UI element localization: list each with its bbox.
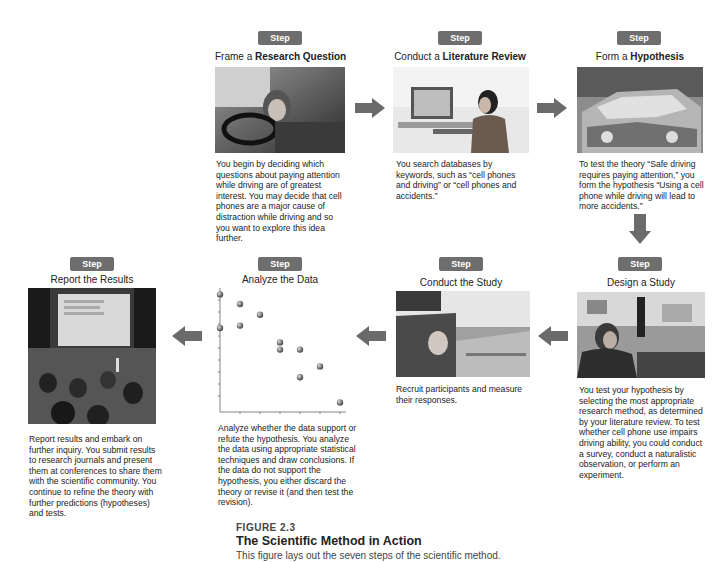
step-badge: Step 1	[258, 31, 302, 45]
data-point	[317, 363, 323, 369]
arrow-right-icon	[355, 98, 385, 118]
photo-driving-simulator	[577, 292, 705, 378]
data-point	[217, 325, 223, 331]
step-description: You search databases by keywords, such a…	[396, 159, 532, 201]
data-point	[277, 346, 283, 352]
photo-crashed-car	[577, 67, 703, 153]
scatter-points	[217, 291, 343, 405]
figure-label: FIGURE 2.3	[236, 522, 501, 533]
photo-participant-in-car	[396, 291, 530, 377]
data-point	[217, 291, 223, 297]
photo-woman-at-computer	[393, 67, 529, 153]
scatterplot	[214, 288, 348, 418]
step-description: Analyze whether the data support or refu…	[218, 423, 358, 508]
photo-woman-driving	[215, 67, 345, 153]
step-title: Analyze the Data	[215, 274, 345, 285]
arrow-right-icon	[537, 98, 567, 118]
step-badge: Step 4	[618, 257, 662, 271]
data-point	[237, 322, 243, 328]
step-title: Conduct a Literature Review	[392, 51, 528, 62]
arrow-left-icon	[356, 326, 386, 346]
step-title: Design a Study	[576, 277, 706, 288]
step-badge: Step 6	[258, 257, 302, 271]
step-description: Recruit participants and measure their r…	[396, 384, 532, 405]
step-title: Conduct the Study	[393, 277, 529, 288]
step-description: Report results and embark on further inq…	[29, 434, 163, 519]
data-point	[257, 312, 263, 318]
data-point	[297, 346, 303, 352]
step-badge: Step 2	[438, 31, 482, 45]
step-description: To test the theory “Safe driving require…	[579, 159, 707, 212]
step-badge: Step 3	[617, 31, 661, 45]
step-badge: Step 5	[439, 257, 483, 271]
data-point	[237, 301, 243, 307]
data-point	[277, 339, 283, 345]
data-point	[297, 374, 303, 380]
arrow-left-icon	[172, 326, 202, 346]
step-description: You test your hypothesis by selecting th…	[579, 385, 709, 480]
step-description: You begin by deciding which questions ab…	[216, 159, 346, 244]
arrow-down-icon	[629, 214, 651, 244]
figure-caption: FIGURE 2.3 The Scientific Method in Acti…	[236, 522, 501, 561]
figure-title: The Scientific Method in Action	[236, 534, 501, 548]
step-title: Report the Results	[27, 274, 157, 285]
step-badge: Step 7	[70, 257, 114, 271]
step-title: Frame a Research Question	[215, 51, 345, 62]
figure-subtitle: This figure lays out the seven steps of …	[236, 550, 501, 561]
photo-conference-audience	[28, 288, 156, 424]
arrow-left-icon	[538, 326, 568, 346]
step-title: Form a Hypothesis	[576, 51, 704, 62]
data-point	[337, 399, 343, 405]
